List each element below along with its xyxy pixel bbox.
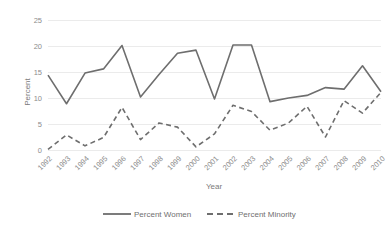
x-tick-label: 1998 [147, 154, 165, 172]
legend-label-percent-minority: Percent Minority [238, 210, 296, 219]
x-tick-label: 2003 [239, 154, 257, 172]
y-tick-label: 15 [34, 68, 42, 77]
x-tick-label: 2006 [295, 154, 313, 172]
x-tick-label: 2009 [350, 154, 368, 172]
chart-container: 0510152025 19921993199419951996199719981… [0, 0, 387, 231]
x-tick-label: 1999 [165, 154, 183, 172]
x-tick-label: 2008 [332, 154, 350, 172]
gridlines-group [48, 20, 381, 150]
x-axis-title: Year [206, 182, 223, 191]
x-tick-label: 1992 [36, 154, 54, 172]
y-tick-label: 20 [34, 42, 42, 51]
line-chart: 0510152025 19921993199419951996199719981… [0, 0, 387, 231]
y-tick-label: 10 [34, 94, 42, 103]
x-tick-label: 2004 [258, 154, 276, 172]
y-tick-label: 0 [38, 146, 42, 155]
x-tick-label: 2001 [202, 154, 220, 172]
x-tick-label: 2007 [313, 154, 331, 172]
y-axis-tick-labels: 0510152025 [34, 16, 42, 155]
x-tick-label: 2000 [184, 154, 202, 172]
x-tick-label: 2005 [276, 154, 294, 172]
y-tick-label: 5 [38, 120, 42, 129]
x-tick-label: 2002 [221, 154, 239, 172]
series-line-percent-women [48, 45, 381, 104]
x-tick-label: 2010 [369, 154, 387, 172]
x-tick-label: 1994 [73, 154, 91, 172]
x-tick-label: 1993 [54, 154, 72, 172]
x-tick-label: 1997 [128, 154, 146, 172]
y-axis-title: Percent [23, 77, 32, 105]
y-tick-label: 25 [34, 16, 42, 25]
x-axis-tick-labels: 1992199319941995199619971998199920002001… [36, 154, 387, 172]
series-group [48, 45, 381, 150]
x-tick-label: 1995 [91, 154, 109, 172]
chart-legend: Percent Women Percent Minority [103, 210, 296, 219]
x-tick-label: 1996 [110, 154, 128, 172]
legend-label-percent-women: Percent Women [134, 210, 191, 219]
series-line-percent-minority [48, 92, 381, 149]
